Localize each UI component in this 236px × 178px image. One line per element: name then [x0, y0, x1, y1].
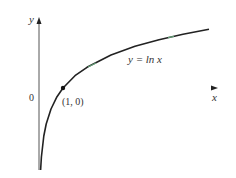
point-marker: [61, 86, 65, 90]
function-label: y = ln x: [127, 53, 162, 65]
x-axis-label: x: [211, 91, 217, 103]
y-axis-label: y: [28, 13, 34, 25]
x-axis: [15, 86, 218, 91]
point-label: (1, 0): [62, 96, 84, 108]
y-axis-arrow-icon: [37, 17, 42, 24]
x-axis-arrow-icon: [211, 86, 218, 91]
y-axis: [37, 17, 42, 170]
ln-graph: y x 0 (1, 0) y = ln x: [0, 0, 236, 178]
origin-label: 0: [29, 92, 34, 103]
